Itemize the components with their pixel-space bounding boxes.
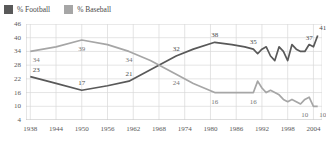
data-series-layer <box>26 24 322 120</box>
x-axis-tick-label: 1980 <box>203 126 217 133</box>
x-axis-tick-label: 1968 <box>152 126 166 133</box>
data-point-label: 39 <box>78 46 85 53</box>
chart-legend: % Football% Baseball <box>4 2 111 16</box>
x-axis-tick-label: 1938 <box>23 126 37 133</box>
square-swatch-icon <box>4 5 13 14</box>
y-axis-tick-label: 4 <box>18 117 22 124</box>
legend-item: % Football <box>4 5 50 14</box>
data-point-label: 17 <box>78 80 85 87</box>
data-point-label: 32 <box>173 46 180 53</box>
data-point-label: 21 <box>125 71 132 78</box>
data-point-label: 34 <box>125 57 132 64</box>
x-axis-tick-label: 1986 <box>229 126 243 133</box>
y-axis-tick-label: 22 <box>14 75 21 82</box>
data-point-label: 23 <box>33 66 40 73</box>
data-point-label: 41 <box>319 25 326 32</box>
legend-label: % Baseball <box>77 5 111 14</box>
data-point-label: 10 <box>301 112 308 119</box>
data-point-label: 37 <box>306 34 313 41</box>
data-point-label: 16 <box>211 98 218 105</box>
plot-area <box>26 24 322 120</box>
x-axis-tick-label: 1992 <box>255 126 269 133</box>
y-axis-tick-label: 10 <box>14 103 21 110</box>
data-point-label: 24 <box>173 80 180 87</box>
data-point-label: 16 <box>250 98 257 105</box>
x-axis-tick-label: 1950 <box>75 126 89 133</box>
data-point-label: 34 <box>33 57 40 64</box>
square-swatch-icon <box>64 5 73 14</box>
x-axis-tick-label: 2004 <box>306 126 320 133</box>
legend-label: % Football <box>17 5 50 14</box>
x-axis-tick-label: 1944 <box>49 126 63 133</box>
x-axis: 1938194419501956196219681974198019861992… <box>26 126 322 140</box>
x-axis-tick-label: 1974 <box>178 126 192 133</box>
y-axis-tick-label: 46 <box>14 21 21 28</box>
y-axis-tick-label: 40 <box>14 34 21 41</box>
data-point-label: 10 <box>319 112 326 119</box>
data-point-label: 38 <box>211 32 218 39</box>
data-point-label: 35 <box>250 39 257 46</box>
y-axis: 410162228344046 <box>0 24 24 120</box>
y-axis-tick-label: 16 <box>14 89 21 96</box>
legend-item: % Baseball <box>64 5 111 14</box>
x-axis-tick-label: 1998 <box>281 126 295 133</box>
x-axis-tick-label: 1956 <box>101 126 115 133</box>
y-axis-tick-label: 34 <box>14 48 21 55</box>
line-chart: % Football% Baseball 410162228344046 193… <box>0 0 326 142</box>
y-axis-tick-label: 28 <box>14 62 21 69</box>
x-axis-tick-label: 1962 <box>126 126 140 133</box>
